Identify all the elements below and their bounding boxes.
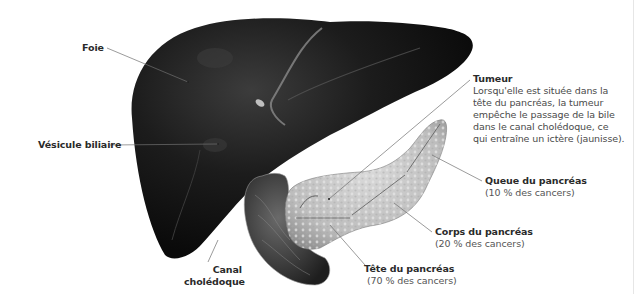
label-corps-sub: (20 % des cancers) <box>435 238 533 250</box>
label-tumeur: Tumeur Lorsqu'elle est située dans la tê… <box>473 73 625 145</box>
label-queue-title: Queue du pancréas <box>485 175 587 187</box>
label-canal-choledoque: Canal cholédoque <box>184 264 242 288</box>
label-canal-line1: Canal <box>184 264 242 276</box>
label-queue-sub: (10 % des cancers) <box>485 187 587 199</box>
label-canal-line2: cholédoque <box>184 276 242 288</box>
label-corps-title: Corps du pancréas <box>435 226 533 238</box>
label-vesicule-title: Vésicule biliaire <box>38 139 121 151</box>
label-tete-pancreas: Tête du pancréas (70 % des cancers) <box>364 263 457 287</box>
label-tumeur-body: Lorsqu'elle est située dans la tête du p… <box>473 85 625 145</box>
leader-canal <box>208 240 218 262</box>
page-edge-divider <box>633 0 634 294</box>
label-tumeur-title: Tumeur <box>473 73 625 85</box>
label-foie-title: Foie <box>82 42 104 54</box>
label-corps-pancreas: Corps du pancréas (20 % des cancers) <box>435 226 533 250</box>
label-foie: Foie <box>82 42 104 54</box>
leader-corps <box>394 203 432 232</box>
label-tete-sub: (70 % des cancers) <box>364 275 457 287</box>
label-tete-title: Tête du pancréas <box>364 263 457 275</box>
leader-queue <box>432 155 482 181</box>
label-vesicule-biliaire: Vésicule biliaire <box>38 139 121 151</box>
label-queue-pancreas: Queue du pancréas (10 % des cancers) <box>485 175 587 199</box>
